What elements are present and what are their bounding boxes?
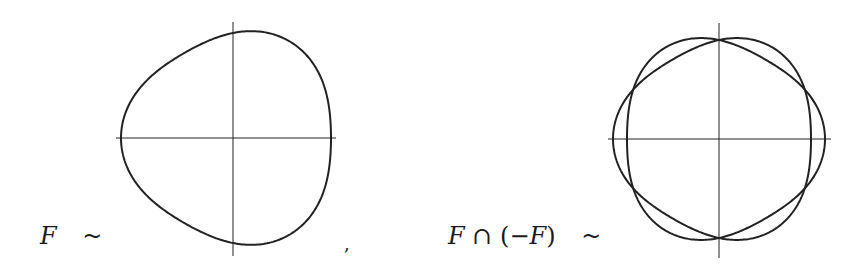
symbol-F: F [530, 222, 547, 250]
symbol-F: F [448, 222, 465, 250]
figure-F-intersection-minus-F [608, 23, 831, 258]
symbol-F: F [40, 222, 57, 250]
similar-symbol: ~ [581, 222, 601, 250]
diagram-canvas [0, 0, 845, 271]
label-F: F ~ [40, 224, 102, 248]
close-paren: ) [546, 222, 555, 250]
intersection-open-paren: ∩ (− [465, 222, 530, 250]
label-F-intersection-minus-F: F ∩ (−F) ~ [448, 224, 601, 248]
figure-F [116, 22, 336, 256]
similar-symbol: ~ [82, 222, 102, 250]
separator-comma: , [344, 235, 350, 253]
